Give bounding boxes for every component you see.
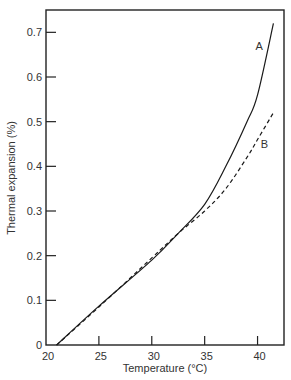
y-tick-label: 0.2 [27,250,42,262]
y-tick-label: 0.6 [27,71,42,83]
y-tick-label: 0.4 [27,160,42,172]
y-axis-title: Thermal expansion (%) [5,121,17,235]
x-tick-label: 35 [201,350,213,362]
x-tick-label: 20 [42,350,54,362]
y-tick-label: 0.3 [27,205,42,217]
y-tick-label: 0.5 [27,116,42,128]
curve-label-a: A [255,40,263,52]
x-axis-title: Temperature (°C) [123,362,207,374]
x-tick-label: 40 [253,350,265,362]
curve-a [57,23,274,345]
x-tick-label: 30 [148,350,160,362]
plot-frame [46,10,284,345]
y-tick-label: 0.1 [27,294,42,306]
thermal-expansion-chart: 2025303540 00.10.20.30.40.50.60.7 AB Tem… [0,0,291,380]
curve-label-b: B [261,138,268,150]
curve-b [57,113,274,345]
data-curves [57,23,274,345]
x-axis-ticks: 2025303540 [42,336,266,362]
y-tick-label: 0.7 [27,26,42,38]
x-tick-label: 25 [95,350,107,362]
axes-box [46,10,284,345]
y-axis-ticks: 00.10.20.30.40.50.60.7 [27,26,56,351]
y-tick-label: 0 [36,339,42,351]
